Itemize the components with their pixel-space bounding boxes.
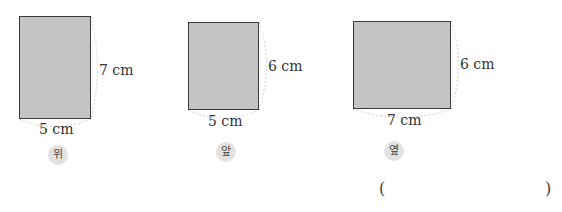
height-label: 6 cm	[460, 57, 494, 71]
view-badge: 옆	[384, 141, 404, 161]
rectangle-front-view	[188, 22, 259, 110]
height-label: 6 cm	[268, 59, 302, 73]
width-label: 5 cm	[208, 114, 242, 128]
close-paren: )	[545, 181, 551, 197]
width-label: 7 cm	[387, 113, 421, 127]
open-paren: (	[379, 181, 385, 197]
height-label: 7 cm	[99, 63, 133, 77]
view-badge: 앞	[216, 142, 236, 162]
width-label: 5 cm	[39, 122, 73, 136]
rectangle-side-view	[353, 21, 451, 109]
view-badge: 위	[48, 145, 68, 165]
rectangle-top-view	[19, 16, 91, 119]
